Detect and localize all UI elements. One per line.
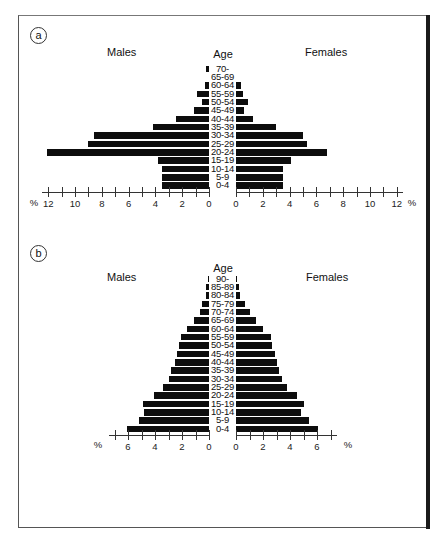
males-title: Males xyxy=(107,46,136,58)
female-bar xyxy=(236,392,297,399)
axis-tick xyxy=(263,187,264,197)
male-bar xyxy=(202,301,209,308)
panel-label-b: b xyxy=(30,245,47,262)
female-bar xyxy=(236,326,263,333)
male-bar xyxy=(162,174,209,181)
panel-label-a: a xyxy=(30,27,47,44)
axis-tick xyxy=(357,187,358,197)
axis-tick-label: 6 xyxy=(119,198,139,209)
axis-tick xyxy=(129,187,130,197)
male-bar xyxy=(194,317,209,324)
axis-tick-label: 6 xyxy=(306,198,326,209)
axis-tick xyxy=(343,187,344,197)
axis-tick xyxy=(250,430,251,440)
male-bar xyxy=(154,392,209,399)
axis-tick-label: 0 xyxy=(199,198,219,209)
male-bar xyxy=(143,401,209,408)
female-bar xyxy=(236,317,256,324)
male-bar xyxy=(144,409,209,416)
male-bar xyxy=(163,384,209,391)
male-bar xyxy=(94,132,209,139)
female-bar xyxy=(236,82,241,89)
female-bar xyxy=(236,284,239,291)
unit-right: % xyxy=(402,197,422,208)
axis-tick xyxy=(75,187,76,197)
axis-tick xyxy=(102,187,103,197)
axis-tick xyxy=(290,430,291,440)
axis-tick xyxy=(316,187,317,197)
axis-tick xyxy=(142,187,143,197)
axis-tick xyxy=(303,187,304,197)
axis-tick xyxy=(155,187,156,197)
female-bar xyxy=(236,99,248,106)
axis-tick xyxy=(88,187,89,197)
axis-tick xyxy=(48,187,49,197)
axis-tick xyxy=(182,430,183,440)
male-bar xyxy=(153,124,209,131)
female-bar xyxy=(236,401,304,408)
axis-tick-label: 4 xyxy=(145,198,165,209)
age-group-label: 0-4 xyxy=(209,425,236,433)
male-bar xyxy=(158,157,209,164)
axis-tick xyxy=(155,430,156,440)
axis-tick xyxy=(236,430,237,440)
females-title: Females xyxy=(305,46,347,58)
female-bar xyxy=(236,359,277,366)
female-bar xyxy=(236,351,275,358)
male-bar xyxy=(202,99,209,106)
male-bar xyxy=(47,149,209,156)
male-bar xyxy=(176,116,210,123)
female-bar xyxy=(236,107,244,114)
male-bar xyxy=(200,309,209,316)
axis-tick xyxy=(62,187,63,197)
female-bar xyxy=(236,91,243,98)
axis-tick-label: 0 xyxy=(226,198,246,209)
axis-tick xyxy=(115,187,116,197)
axis-tick-label: 2 xyxy=(253,441,273,452)
axis-tick xyxy=(290,187,291,197)
axis-tick-label: 4 xyxy=(280,198,300,209)
female-axis-line xyxy=(236,435,337,436)
axis-tick xyxy=(370,187,371,197)
axis-tick xyxy=(169,187,170,197)
axis-tick xyxy=(277,430,278,440)
male-bar xyxy=(171,367,209,374)
axis-tick-label: 10 xyxy=(360,198,380,209)
female-bar xyxy=(236,292,240,299)
axis-tick-label: 6 xyxy=(307,441,327,452)
female-bar xyxy=(236,116,253,123)
male-bar xyxy=(181,334,209,341)
male-bar xyxy=(194,107,209,114)
female-bar xyxy=(236,376,282,383)
axis-tick xyxy=(397,187,398,197)
axis-tick xyxy=(115,430,116,440)
axis-tick xyxy=(128,430,129,440)
male-bar xyxy=(162,166,209,173)
axis-tick-label: 8 xyxy=(92,198,112,209)
male-bar xyxy=(206,66,209,73)
axis-tick-label: 0 xyxy=(199,441,219,452)
axis-tick-label: 8 xyxy=(333,198,353,209)
female-bar xyxy=(236,166,283,173)
male-bar xyxy=(177,351,209,358)
axis-tick xyxy=(383,187,384,197)
male-bar xyxy=(139,417,209,424)
axis-tick-label: 4 xyxy=(280,441,300,452)
axis-tick xyxy=(317,430,318,440)
axis-tick xyxy=(331,430,332,440)
male-bar xyxy=(179,342,209,349)
axis-tick xyxy=(182,187,183,197)
female-bar xyxy=(236,149,327,156)
axis-tick xyxy=(196,187,197,197)
male-bar xyxy=(206,292,209,299)
male-bar xyxy=(197,91,209,98)
axis-tick xyxy=(249,187,250,197)
female-bar xyxy=(236,334,271,341)
axis-tick xyxy=(330,187,331,197)
male-bar xyxy=(205,82,209,89)
unit-left: % xyxy=(24,197,44,208)
female-bar xyxy=(236,367,279,374)
female-bar xyxy=(236,157,291,164)
female-bar xyxy=(236,384,287,391)
age-title: Age xyxy=(203,48,243,60)
